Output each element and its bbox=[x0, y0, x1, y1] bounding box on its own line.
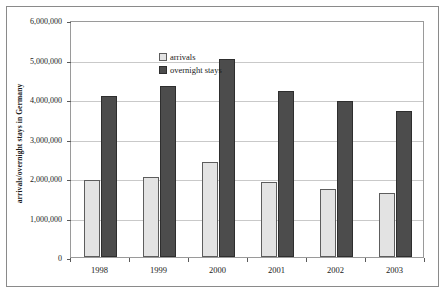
bars-layer bbox=[71, 22, 423, 257]
legend-label: arrivals bbox=[170, 52, 196, 62]
y-axis-tick-label: 2,000,000 bbox=[0, 175, 62, 184]
bar-arrivals-2000 bbox=[202, 162, 218, 257]
x-axis-tick-label-2001: 2001 bbox=[247, 265, 307, 275]
y-axis-tick-label: 3,000,000 bbox=[0, 135, 62, 144]
x-axis-tick-mark bbox=[247, 258, 248, 262]
x-axis-tick-mark bbox=[129, 258, 130, 262]
x-axis-tick-mark bbox=[365, 258, 366, 262]
bar-overnight-stays-2002 bbox=[337, 101, 353, 257]
bar-arrivals-2003 bbox=[379, 193, 395, 257]
legend-label: overnight stays bbox=[170, 65, 222, 75]
x-axis-tick-mark bbox=[306, 258, 307, 262]
bar-overnight-stays-2003 bbox=[396, 111, 412, 257]
x-axis-tick-mark bbox=[424, 258, 425, 262]
legend-swatch-icon bbox=[159, 66, 167, 74]
bar-overnight-stays-2001 bbox=[278, 91, 294, 257]
x-axis-tick-mark bbox=[70, 258, 71, 262]
bar-arrivals-2001 bbox=[261, 182, 277, 257]
bar-arrivals-1998 bbox=[84, 180, 100, 257]
bar-overnight-stays-1999 bbox=[160, 86, 176, 257]
y-axis-tick-label: 0 bbox=[0, 254, 62, 263]
legend-item-arrivals: arrivals bbox=[159, 50, 222, 63]
x-axis-tick-label-2000: 2000 bbox=[188, 265, 248, 275]
legend-item-overnight-stays: overnight stays bbox=[159, 63, 222, 76]
y-axis-tick-label: 4,000,000 bbox=[0, 96, 62, 105]
bar-arrivals-2002 bbox=[320, 189, 336, 257]
y-axis-tick-label: 5,000,000 bbox=[0, 56, 62, 65]
x-axis-tick-label-1999: 1999 bbox=[129, 265, 189, 275]
chart-legend: arrivalsovernight stays bbox=[159, 50, 222, 76]
y-axis-tick-label: 1,000,000 bbox=[0, 214, 62, 223]
chart-figure: arrivals/overnight stays in Germany 01,0… bbox=[0, 0, 446, 294]
x-axis-tick-label-1998: 1998 bbox=[70, 265, 130, 275]
bar-arrivals-1999 bbox=[143, 177, 159, 257]
x-axis-tick-label-2002: 2002 bbox=[306, 265, 366, 275]
y-axis-tick-label: 6,000,000 bbox=[0, 17, 62, 26]
bar-overnight-stays-1998 bbox=[101, 96, 117, 257]
legend-swatch-icon bbox=[159, 53, 167, 61]
plot-area: arrivalsovernight stays bbox=[70, 21, 424, 258]
bar-overnight-stays-2000 bbox=[219, 59, 235, 257]
x-axis-tick-label-2003: 2003 bbox=[365, 265, 425, 275]
x-axis-tick-mark bbox=[188, 258, 189, 262]
